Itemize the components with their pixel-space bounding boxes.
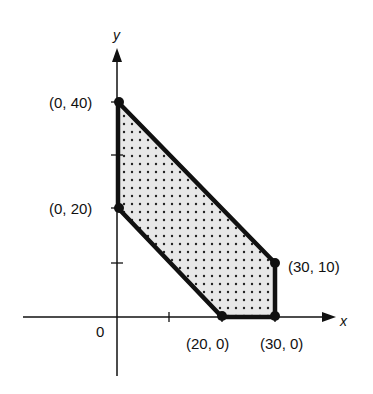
feasible-region: [118, 102, 275, 317]
vertex-0-40: [114, 97, 124, 107]
origin-label: 0: [96, 323, 104, 340]
vertex-0-20: [114, 203, 124, 213]
y-axis-arrow-icon: [112, 48, 122, 62]
label-30-10: (30, 10): [288, 258, 340, 275]
label-0-40: (0, 40): [49, 94, 92, 111]
y-axis-label: y: [112, 27, 121, 43]
label-0-20: (0, 20): [49, 200, 92, 217]
x-axis-label: x: [339, 313, 348, 329]
label-30-0: (30, 0): [260, 335, 303, 352]
label-20-0: (20, 0): [186, 335, 229, 352]
vertex-30-0: [270, 311, 280, 321]
vertex-30-10: [270, 258, 280, 268]
x-axis-arrow-icon: [322, 312, 336, 322]
vertex-20-0: [217, 311, 227, 321]
feasible-region-diagram: y x 0 (0, 40) (30, 10) (30, 0) (20, 0) (…: [0, 0, 373, 394]
